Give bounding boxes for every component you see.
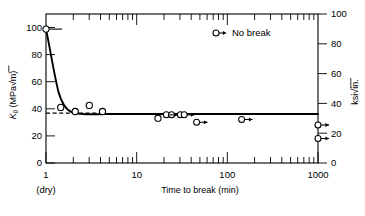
- x-axis-label: Time to break (min): [161, 185, 239, 195]
- y-tick-left-0: 0: [37, 157, 42, 168]
- y-axis-label-right: ksi√in.: [350, 78, 360, 105]
- data-point: [72, 108, 78, 114]
- data-point: [43, 26, 49, 32]
- legend-marker-icon: [213, 30, 219, 36]
- data-point: [99, 108, 105, 114]
- data-point: [155, 115, 161, 121]
- y-tick-right-80: 80: [331, 38, 342, 49]
- y-tick-left-100: 100: [26, 22, 42, 33]
- data-point-no-break: [315, 122, 321, 128]
- data-point-no-break: [239, 117, 245, 123]
- data-point-no-break: [194, 119, 200, 125]
- y-tick-left-20: 20: [31, 130, 42, 141]
- legend-label: No break: [232, 27, 271, 38]
- x-tick-1: 1: [43, 169, 48, 180]
- data-point: [58, 104, 64, 110]
- y-tick-right-100: 100: [331, 8, 347, 19]
- fracture-toughness-chart: 0 20 40 60 80 100 0 20 40 60 80 100 1 10…: [0, 0, 365, 216]
- y-tick-right-60: 60: [331, 68, 342, 79]
- y-tick-left-80: 80: [31, 49, 42, 60]
- data-point: [86, 102, 92, 108]
- y-label-units: (MPa√m): [8, 71, 18, 108]
- data-point-no-break: [315, 136, 321, 142]
- x-tick-1000: 1000: [307, 169, 328, 180]
- y-tick-right-40: 40: [331, 98, 342, 109]
- x-tick-10: 10: [131, 169, 142, 180]
- chart-svg: 0 20 40 60 80 100 0 20 40 60 80 100 1 10…: [0, 0, 365, 216]
- y-tick-left-60: 60: [31, 76, 42, 87]
- dry-annotation: (dry): [36, 184, 56, 195]
- y-label-right-text: ksi√in.: [350, 79, 360, 104]
- x-tick-100: 100: [219, 169, 235, 180]
- y-tick-right-0: 0: [331, 157, 336, 168]
- data-point-no-break: [181, 112, 187, 118]
- y-tick-left-40: 40: [31, 103, 42, 114]
- y-tick-right-20: 20: [331, 128, 342, 139]
